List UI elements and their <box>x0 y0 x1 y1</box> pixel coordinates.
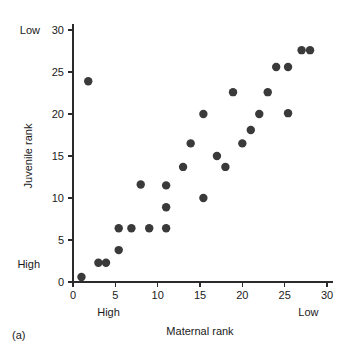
data-point <box>162 224 170 232</box>
plot-axes-frame <box>73 24 333 282</box>
data-point <box>186 139 194 147</box>
data-point <box>297 46 305 54</box>
data-point <box>247 126 255 134</box>
data-point <box>179 163 187 171</box>
data-point <box>306 46 314 54</box>
x-axis-tick-label: 5 <box>112 289 118 301</box>
data-point <box>272 63 280 71</box>
y-axis-bottom-anchor-label: High <box>17 258 40 270</box>
data-point <box>162 203 170 211</box>
y-axis-tick-label: 30 <box>52 24 64 36</box>
y-axis-tick-label: 0 <box>58 276 64 288</box>
scatter-plot-canvas: 051015202530051015202530LowHighHighLowMa… <box>0 0 358 345</box>
x-axis-tick-label: 20 <box>236 289 248 301</box>
data-point <box>199 110 207 118</box>
data-point <box>264 88 272 96</box>
data-point <box>94 258 102 266</box>
data-point <box>127 224 135 232</box>
x-axis-tick-label: 30 <box>321 289 333 301</box>
data-point <box>137 180 145 188</box>
y-axis-tick-label: 10 <box>52 192 64 204</box>
data-point <box>77 273 85 281</box>
data-point <box>115 224 123 232</box>
data-point <box>115 246 123 254</box>
data-point <box>221 163 229 171</box>
data-point <box>255 110 263 118</box>
data-point <box>238 139 246 147</box>
data-point <box>145 224 153 232</box>
x-axis-tick-label: 10 <box>152 289 164 301</box>
x-axis-right-anchor-label: Low <box>298 306 318 318</box>
scatter-plot-figure: 051015202530051015202530LowHighHighLowMa… <box>0 0 358 345</box>
data-point <box>84 77 92 85</box>
x-axis-tick-label: 15 <box>194 289 206 301</box>
x-axis-tick-label: 0 <box>70 289 76 301</box>
y-axis-top-anchor-label: Low <box>20 24 40 36</box>
data-point <box>284 63 292 71</box>
y-axis-tick-label: 5 <box>58 234 64 246</box>
data-point <box>284 109 292 117</box>
x-axis-left-anchor-label: High <box>97 306 120 318</box>
y-axis-tick-label: 20 <box>52 108 64 120</box>
data-point <box>102 258 110 266</box>
y-axis-tick-label: 15 <box>52 150 64 162</box>
x-axis-tick-label: 25 <box>279 289 291 301</box>
data-point <box>162 181 170 189</box>
figure-caption: (a) <box>12 329 25 341</box>
y-axis-title: Juvenile rank <box>22 123 34 188</box>
x-axis-title: Maternal rank <box>166 325 234 337</box>
data-point <box>199 194 207 202</box>
data-point <box>213 152 221 160</box>
data-point <box>229 88 237 96</box>
data-point-group <box>77 46 314 281</box>
y-axis-tick-label: 25 <box>52 66 64 78</box>
